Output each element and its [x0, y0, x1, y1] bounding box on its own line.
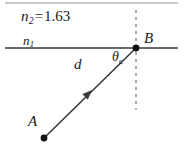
- n1-subscript: 1: [30, 39, 34, 49]
- theta-subscript-c: c: [119, 56, 123, 66]
- label-point-b: B: [144, 31, 153, 46]
- optics-diagram-canvas: n2=1.63 n1 d θc B A: [0, 0, 185, 153]
- label-refractive-index-n1: n1: [23, 34, 34, 49]
- n2-value: 1.63: [44, 8, 70, 24]
- n2-subscript: 2: [29, 15, 34, 26]
- n2-symbol: n: [21, 8, 29, 24]
- label-distance-d: d: [74, 57, 82, 72]
- label-refractive-index-n2: n2=1.63: [21, 9, 70, 26]
- point-a-dot: [41, 135, 48, 142]
- label-point-a: A: [28, 114, 37, 129]
- label-critical-angle: θc: [112, 50, 123, 66]
- theta-symbol: θ: [112, 49, 119, 64]
- n2-equals-sign: =: [34, 8, 44, 24]
- n1-symbol: n: [23, 33, 30, 48]
- point-b-dot: [133, 45, 140, 52]
